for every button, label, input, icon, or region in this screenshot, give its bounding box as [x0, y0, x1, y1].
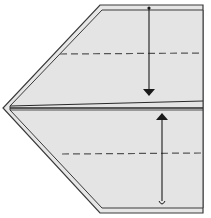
- paper-inner-layer: [10, 10, 203, 208]
- origami-diagram: [0, 0, 211, 218]
